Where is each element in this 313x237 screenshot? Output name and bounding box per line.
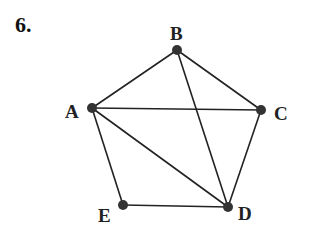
node-A	[87, 103, 97, 113]
node-B	[172, 45, 182, 55]
edge-C-D	[228, 110, 261, 207]
node-label-C: C	[274, 104, 288, 123]
node-label-A: A	[65, 102, 79, 121]
graph-diagram	[0, 0, 313, 237]
edge-A-E	[92, 108, 123, 205]
edge-A-C	[92, 108, 261, 110]
node-label-B: B	[170, 24, 183, 43]
edge-E-D	[123, 205, 228, 207]
node-label-D: D	[238, 204, 252, 223]
node-label-E: E	[98, 206, 111, 225]
node-C	[256, 105, 266, 115]
edge-A-B	[92, 50, 177, 108]
edge-A-D	[92, 108, 228, 207]
node-E	[118, 200, 128, 210]
edge-B-C	[177, 50, 261, 110]
node-D	[223, 202, 233, 212]
edge-B-D	[177, 50, 228, 207]
